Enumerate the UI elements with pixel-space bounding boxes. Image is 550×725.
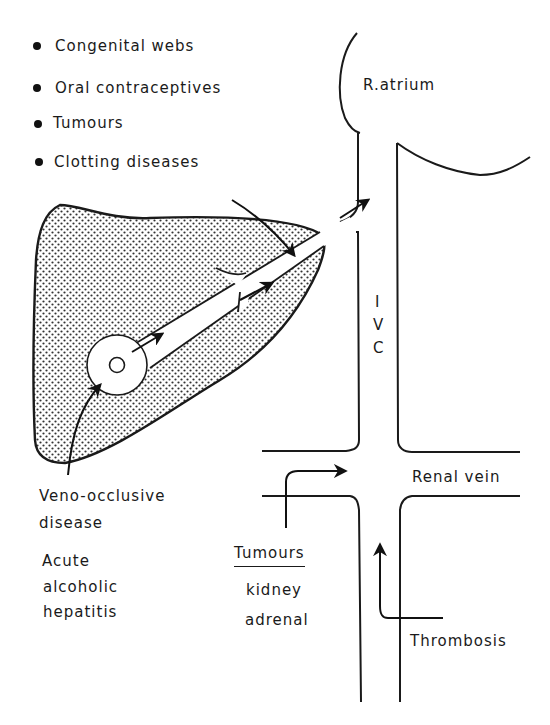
label-alcoholic-2: alcoholic <box>43 580 118 595</box>
label-veno-occlusive-1: Veno-occlusive <box>39 489 165 504</box>
label-renal-vein: Renal vein <box>412 470 500 485</box>
label-alcoholic-3: hepatitis <box>43 605 117 620</box>
bullet-icon <box>34 120 42 128</box>
label-adrenal: adrenal <box>245 613 309 628</box>
label-renal-tumours-heading: Tumours <box>234 546 305 567</box>
label-right-atrium: R.atrium <box>363 78 435 93</box>
liver <box>34 205 353 463</box>
cause-oral-contraceptives: Oral contraceptives <box>55 81 221 96</box>
bullet-icon <box>33 84 41 92</box>
label-thrombosis: Thrombosis <box>410 634 507 649</box>
bullet-icon <box>33 42 41 50</box>
label-kidney: kidney <box>246 583 302 598</box>
cause-tumours: Tumours <box>53 116 124 131</box>
cause-clotting-diseases: Clotting diseases <box>54 155 199 170</box>
bullet-icon <box>35 158 43 166</box>
label-ivc-i: I <box>375 295 380 310</box>
label-ivc-v: V <box>373 318 384 333</box>
label-alcoholic-1: Acute <box>42 554 90 569</box>
cause-congenital-webs: Congenital webs <box>55 39 194 54</box>
label-veno-occlusive-2: disease <box>39 516 103 531</box>
right-atrium-outline <box>340 33 530 175</box>
label-ivc-c: C <box>373 341 384 356</box>
